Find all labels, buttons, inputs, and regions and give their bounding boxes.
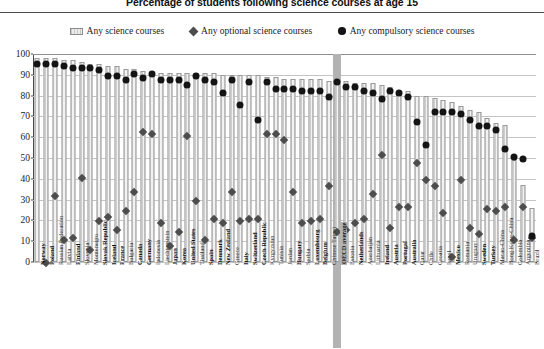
compulsory-science-marker[interactable] xyxy=(457,110,464,117)
compulsory-science-marker[interactable] xyxy=(475,123,482,130)
bar[interactable] xyxy=(79,62,84,262)
compulsory-science-marker[interactable] xyxy=(43,60,50,67)
compulsory-science-marker[interactable] xyxy=(193,73,200,80)
bar[interactable] xyxy=(379,85,384,262)
chart-category-group[interactable] xyxy=(457,54,466,262)
chart-category-group[interactable] xyxy=(148,54,157,262)
bar[interactable] xyxy=(44,58,49,262)
compulsory-science-marker[interactable] xyxy=(149,71,156,78)
chart-category-group[interactable] xyxy=(201,54,210,262)
bar[interactable] xyxy=(432,98,437,262)
compulsory-science-marker[interactable] xyxy=(413,118,420,125)
chart-category-group[interactable] xyxy=(368,54,377,262)
compulsory-science-marker[interactable] xyxy=(396,89,403,96)
chart-category-group[interactable] xyxy=(439,54,448,262)
chart-category-group[interactable] xyxy=(245,54,254,262)
compulsory-science-marker[interactable] xyxy=(131,71,138,78)
compulsory-science-marker[interactable] xyxy=(166,77,173,84)
bar[interactable] xyxy=(441,100,446,262)
bar[interactable] xyxy=(397,91,402,262)
compulsory-science-marker[interactable] xyxy=(484,123,491,130)
compulsory-science-marker[interactable] xyxy=(210,79,217,86)
compulsory-science-marker[interactable] xyxy=(422,141,429,148)
compulsory-science-marker[interactable] xyxy=(387,87,394,94)
bar[interactable] xyxy=(35,58,40,262)
bar[interactable] xyxy=(150,71,155,262)
compulsory-science-marker[interactable] xyxy=(113,73,120,80)
compulsory-science-marker[interactable] xyxy=(343,83,350,90)
bar[interactable] xyxy=(132,69,137,262)
chart-category-group[interactable] xyxy=(77,54,86,262)
chart-category-group[interactable] xyxy=(280,54,289,262)
bar[interactable] xyxy=(406,91,411,262)
chart-category-group[interactable] xyxy=(395,54,404,262)
bar[interactable] xyxy=(300,79,305,262)
compulsory-science-marker[interactable] xyxy=(69,64,76,71)
compulsory-science-marker[interactable] xyxy=(87,64,94,71)
compulsory-science-marker[interactable] xyxy=(440,108,447,115)
chart-category-group[interactable] xyxy=(174,54,183,262)
compulsory-science-marker[interactable] xyxy=(493,127,500,134)
chart-category-group[interactable] xyxy=(518,54,527,262)
chart-category-group[interactable] xyxy=(289,54,298,262)
chart-category-group[interactable] xyxy=(42,54,51,262)
chart-category-group[interactable] xyxy=(448,54,457,262)
compulsory-science-marker[interactable] xyxy=(157,77,164,84)
chart-category-group[interactable] xyxy=(130,54,139,262)
compulsory-science-marker[interactable] xyxy=(255,116,262,123)
chart-category-group[interactable] xyxy=(527,54,536,262)
bar[interactable] xyxy=(370,83,375,262)
compulsory-science-marker[interactable] xyxy=(431,108,438,115)
chart-category-group[interactable] xyxy=(465,54,474,262)
chart-category-group[interactable] xyxy=(68,54,77,262)
bar[interactable] xyxy=(141,71,146,262)
compulsory-science-marker[interactable] xyxy=(184,81,191,88)
compulsory-science-marker[interactable] xyxy=(202,77,209,84)
compulsory-science-marker[interactable] xyxy=(449,108,456,115)
bar[interactable] xyxy=(211,73,216,262)
compulsory-science-marker[interactable] xyxy=(228,77,235,84)
compulsory-science-marker[interactable] xyxy=(281,85,288,92)
bar[interactable] xyxy=(467,110,472,262)
bar[interactable] xyxy=(88,64,93,262)
chart-category-group[interactable] xyxy=(209,54,218,262)
compulsory-science-marker[interactable] xyxy=(352,83,359,90)
chart-category-group[interactable] xyxy=(377,54,386,262)
chart-category-group[interactable] xyxy=(421,54,430,262)
compulsory-science-marker[interactable] xyxy=(325,94,332,101)
compulsory-science-marker[interactable] xyxy=(360,87,367,94)
compulsory-science-marker[interactable] xyxy=(272,85,279,92)
compulsory-science-marker[interactable] xyxy=(299,87,306,94)
bar[interactable] xyxy=(203,73,208,262)
compulsory-science-marker[interactable] xyxy=(466,116,473,123)
chart-category-group[interactable] xyxy=(430,54,439,262)
bar[interactable] xyxy=(476,112,481,262)
chart-category-group[interactable] xyxy=(121,54,130,262)
chart-category-group[interactable] xyxy=(86,54,95,262)
compulsory-science-marker[interactable] xyxy=(290,85,297,92)
compulsory-science-marker[interactable] xyxy=(78,64,85,71)
compulsory-science-marker[interactable] xyxy=(263,79,270,86)
compulsory-science-marker[interactable] xyxy=(334,79,341,86)
bar[interactable] xyxy=(123,69,128,262)
chart-category-group[interactable] xyxy=(412,54,421,262)
compulsory-science-marker[interactable] xyxy=(246,79,253,86)
optional-science-marker[interactable] xyxy=(192,196,200,204)
compulsory-science-marker[interactable] xyxy=(60,62,67,69)
chart-category-group[interactable] xyxy=(386,54,395,262)
compulsory-science-marker[interactable] xyxy=(510,154,517,161)
compulsory-science-marker[interactable] xyxy=(34,60,41,67)
chart-category-group[interactable] xyxy=(33,54,42,262)
chart-category-group[interactable] xyxy=(404,54,413,262)
chart-category-group[interactable] xyxy=(236,54,245,262)
compulsory-science-marker[interactable] xyxy=(316,87,323,94)
compulsory-science-marker[interactable] xyxy=(237,102,244,109)
chart-category-group[interactable] xyxy=(483,54,492,262)
chart-category-group[interactable] xyxy=(474,54,483,262)
optional-science-marker[interactable] xyxy=(386,223,394,231)
bar[interactable] xyxy=(388,87,393,262)
chart-category-group[interactable] xyxy=(298,54,307,262)
compulsory-science-marker[interactable] xyxy=(52,60,59,67)
chart-category-group[interactable] xyxy=(271,54,280,262)
compulsory-science-marker[interactable] xyxy=(175,77,182,84)
